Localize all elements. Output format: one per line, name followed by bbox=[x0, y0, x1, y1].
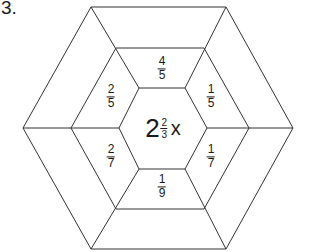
center-expression: 2 2 3 x bbox=[145, 115, 180, 141]
numerator: 2 bbox=[107, 144, 116, 155]
fraction-lower-left: 2 7 bbox=[107, 144, 116, 169]
denominator: 7 bbox=[207, 159, 216, 170]
numerator: 1 bbox=[158, 174, 167, 185]
numerator: 2 bbox=[107, 84, 116, 95]
denominator: 9 bbox=[158, 189, 167, 200]
fraction-upper-right: 1 5 bbox=[207, 84, 216, 109]
numerator: 1 bbox=[207, 144, 216, 155]
numerator: 1 bbox=[207, 84, 216, 95]
center-numerator: 2 bbox=[161, 118, 167, 127]
center-whole-number: 2 bbox=[145, 115, 159, 141]
center-fraction: 2 3 bbox=[161, 118, 168, 139]
numerator: 4 bbox=[158, 56, 167, 67]
fraction-upper-left: 2 5 bbox=[107, 84, 116, 109]
fraction-bottom: 1 9 bbox=[158, 174, 167, 199]
center-denominator: 3 bbox=[161, 130, 167, 139]
fraction-top: 4 5 bbox=[158, 56, 167, 81]
center-variable: x bbox=[171, 118, 181, 138]
denominator: 5 bbox=[107, 99, 116, 110]
denominator: 5 bbox=[158, 71, 167, 82]
fraction-lower-right: 1 7 bbox=[207, 144, 216, 169]
denominator: 5 bbox=[207, 99, 216, 110]
denominator: 7 bbox=[107, 159, 116, 170]
